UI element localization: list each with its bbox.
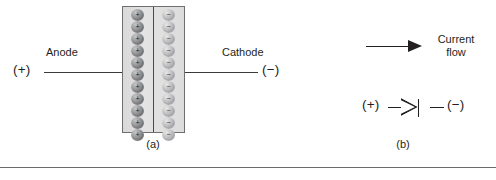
panel-b-caption: (b) [388,138,418,151]
plus-sign-icon: + [131,35,144,43]
positive-carrier: + [131,81,144,93]
p-type-region: + + + + + + + + + + + [123,7,154,132]
minus-sign-icon: − [162,23,175,31]
positive-carrier: + [131,45,144,57]
minus-sign-icon: − [162,59,175,67]
negative-carrier: − [162,21,175,33]
plus-sign-icon: + [131,119,144,127]
cathode-lead-wire [185,72,258,73]
positive-carrier: + [131,21,144,33]
diode-triangle-icon [401,98,418,116]
negative-carrier: − [162,81,175,93]
anode-label: Anode [46,46,78,59]
plus-sign-icon: + [131,107,144,115]
positive-carrier: + [131,117,144,129]
minus-sign-icon: − [162,95,175,103]
current-flow-arrow-icon [408,40,422,52]
plus-sign-icon: + [131,11,144,19]
panel-a-caption: (a) [138,138,168,151]
negative-carrier: − [162,9,175,21]
diode-anode-lead [388,107,401,108]
cathode-terminal-polarity: (−) [262,62,279,78]
positive-carrier: + [131,69,144,81]
negative-carrier: − [162,33,175,45]
positive-carrier: + [131,33,144,45]
diode-cathode-bar-icon [418,99,419,117]
current-flow-label-line1: Current [428,33,484,46]
anode-terminal-polarity: (+) [13,62,30,78]
plus-sign-icon: + [131,59,144,67]
negative-carrier: − [162,69,175,81]
diode-cathode-lead [430,107,444,108]
minus-sign-icon: − [162,11,175,19]
positive-carrier: + [131,57,144,69]
current-flow-label: Current flow [428,33,484,59]
cathode-label: Cathode [222,46,264,59]
minus-sign-icon: − [162,107,175,115]
positive-carrier: + [131,9,144,21]
anode-lead-wire [44,72,122,73]
n-type-region: − − − − − − − − − − − [154,7,185,132]
figure-bottom-rule [0,167,496,168]
plus-sign-icon: + [131,95,144,103]
positive-carrier: + [131,93,144,105]
positive-carrier: + [131,105,144,117]
current-flow-label-line2: flow [428,46,484,59]
plus-sign-icon: + [131,71,144,79]
current-flow-arrow-shaft [366,46,410,47]
junction-block: + + + + + + + + + + + − − − − − − − − [122,6,185,133]
diode-anode-polarity: (+) [362,97,379,113]
minus-sign-icon: − [162,83,175,91]
plus-sign-icon: + [131,47,144,55]
minus-sign-icon: − [162,119,175,127]
negative-carrier: − [162,117,175,129]
diode-cathode-polarity: (−) [447,97,464,113]
negative-carrier: − [162,57,175,69]
plus-sign-icon: + [131,83,144,91]
negative-carrier: − [162,45,175,57]
negative-carrier: − [162,93,175,105]
minus-sign-icon: − [162,47,175,55]
minus-sign-icon: − [162,71,175,79]
minus-sign-icon: − [162,35,175,43]
pn-junction-diode-figure: (+) Anode + + + + + + + + + + + − − − − [0,0,496,180]
negative-carrier: − [162,105,175,117]
plus-sign-icon: + [131,23,144,31]
panel-b-diode-symbol: Current flow (+) (−) (b) [300,0,496,168]
panel-a-pn-junction: (+) Anode + + + + + + + + + + + − − − − [0,0,300,168]
